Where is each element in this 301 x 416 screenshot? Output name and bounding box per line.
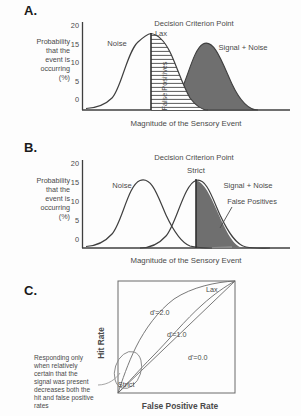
panel-c-annotation-line-3: certain that the <box>34 370 78 377</box>
panel-a-ylabel-line-4: occurring <box>40 64 70 73</box>
panel-c-annotation-line-4: signal was present <box>34 378 89 386</box>
panel-a-ytick-20: 20 <box>71 21 79 30</box>
panel-b-criterion-label: Strict <box>187 166 206 175</box>
panel-a-xlabel: Magnitude of the Sensory Event <box>131 119 243 128</box>
panel-c-ylabel: Hit Rate <box>96 327 106 359</box>
panel-b-ytick-5: 5 <box>75 216 79 225</box>
panel-a-signal-label: Signal + Noise <box>218 43 267 52</box>
panel-a-ylabel-line-5: (%) <box>59 73 70 82</box>
panel-a-ylabel-line-3: event is <box>45 55 70 64</box>
panel-c-xlabel: False Positive Rate <box>142 401 219 411</box>
panel-b-chart: Decision Criterion Point Strict Probabil… <box>0 135 301 265</box>
panel-a-ytick-15: 15 <box>71 40 79 49</box>
panel-c-curve-label-d0: d'=0.0 <box>188 353 208 362</box>
panel-b-ytick-20: 20 <box>71 159 79 168</box>
panel-a: A. Decision Criterion Point Lax Probabil… <box>0 0 301 135</box>
panel-b-title: Decision Criterion Point <box>154 153 234 162</box>
panel-c-annotation-line-7: rates <box>34 402 49 409</box>
panel-b-xlabel: Magnitude of the Sensory Event <box>131 256 243 265</box>
panel-b-signal-label: Signal + Noise <box>223 181 272 190</box>
panel-b-ylabel-line-2: that the <box>46 185 70 194</box>
panel-a-ytick-5: 5 <box>75 77 79 86</box>
panel-a-ylabel-line-2: that the <box>46 46 70 55</box>
panel-a-ytick-10: 10 <box>71 58 79 67</box>
panel-c-curve-label-d2: d'=2.0 <box>150 308 170 317</box>
panel-a-chart: Decision Criterion Point Lax Probability… <box>0 0 301 135</box>
panel-b-ylabel-line-1: Probability <box>36 176 70 185</box>
panel-c-annotation-line-6: hit and false positive <box>34 394 94 402</box>
panel-a-false-positives-label: False Positives <box>160 61 169 110</box>
panel-b-false-positives-label: False Positives <box>227 197 277 206</box>
panel-b-ytick-10: 10 <box>71 197 79 206</box>
panel-c-strict-label: Strict <box>118 380 134 389</box>
panel-a-ytick-0: 0 <box>75 95 79 104</box>
panel-b-noise-label: Noise <box>112 181 131 190</box>
panel-a-title: Decision Criterion Point <box>154 19 234 28</box>
panel-c-annotation-line-1: Responding only <box>34 354 84 362</box>
panel-c-lax-label: Lax <box>206 285 218 294</box>
panel-c-chart: d'=2.0 d'=1.0 d'=0.0 Lax Strict Hit Rate… <box>0 265 301 416</box>
panel-c-annotation-line-5: decreases both the <box>34 386 90 393</box>
panel-b-ylabel-line-3: event is <box>45 194 70 203</box>
panel-c-annotation-line-2: when relatively <box>33 362 78 370</box>
panel-a-noise-label: Noise <box>107 39 126 48</box>
panel-b-ylabel-line-4: occurring <box>40 203 70 212</box>
panel-c: C. d'=2.0 d'=1.0 d'=0.0 Lax Strict Hit R… <box>0 265 301 416</box>
panel-b-ytick-0: 0 <box>75 235 79 244</box>
panel-b-noise-curve <box>86 180 212 248</box>
panel-b: B. Decision Criterion Point Strict Proba… <box>0 135 301 265</box>
panel-c-curve-label-d1: d'=1.0 <box>167 330 187 339</box>
panel-a-ylabel-line-1: Probability <box>36 37 70 46</box>
panel-b-ytick-15: 15 <box>71 178 79 187</box>
panel-b-ylabel-line-5: (%) <box>59 212 70 221</box>
